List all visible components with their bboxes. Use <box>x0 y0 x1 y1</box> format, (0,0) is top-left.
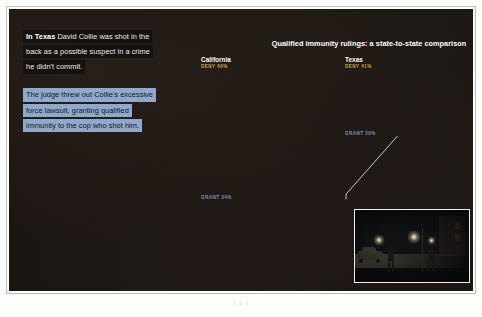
narrative-paragraph-2: The judge threw out Collie's excessive f… <box>23 88 199 134</box>
california-deny-label: DENY 66% <box>201 64 228 69</box>
narrative-p2-line-1: The judge threw out Collie's excessive <box>23 88 156 101</box>
narrative-p1-line-1-text: David Collie was shot in the <box>57 32 149 41</box>
texas-deny-label: DENY 41% <box>345 64 372 69</box>
narrative-lead: In Texas <box>26 32 55 41</box>
infographic-panel: In Texas David Collie was shot in the ba… <box>9 9 473 291</box>
narrative-p1-line-3: he didn't commit. <box>23 60 85 73</box>
photo-inset <box>354 209 470 283</box>
chart-area: Qualified immunity rulings: a state-to-s… <box>199 23 465 285</box>
california-grant-label: GRANT 34% <box>201 195 232 200</box>
narrative-p1-line-1: In Texas David Collie was shot in the <box>23 30 152 43</box>
chart-title: Qualified immunity rulings: a state-to-s… <box>239 39 473 48</box>
state-label-california: California <box>201 56 231 63</box>
narrative-p2-line-3: immunity to the cop who shot him. <box>23 119 142 132</box>
figure-caption: ( 1 ) <box>0 300 482 306</box>
page-root: In Texas David Collie was shot in the ba… <box>0 0 482 317</box>
narrative-p1-line-2: back as a possible suspect in a crime <box>23 45 153 58</box>
narrative-column: In Texas David Collie was shot in the ba… <box>23 29 199 133</box>
texas-grant-label: GRANT 59% <box>345 131 376 136</box>
narrative-paragraph-1: In Texas David Collie was shot in the ba… <box>23 29 199 75</box>
narrative-p2-line-2: force lawsuit, granting qualified <box>23 104 132 117</box>
state-label-texas: Texas <box>345 56 363 63</box>
